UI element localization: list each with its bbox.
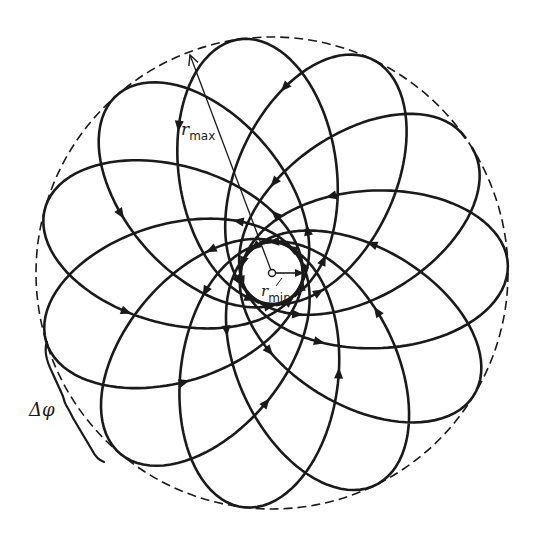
orbit-arrow-icon (334, 367, 343, 378)
r-min-leader (276, 278, 282, 286)
rosette-orbit-figure: rmax rmin Δφ (0, 0, 535, 546)
orbit-arrow-icon (204, 243, 218, 256)
orbit-arrow-icon (114, 207, 127, 221)
r-max-label: rmax (181, 119, 215, 143)
r-max-arrow (190, 55, 272, 273)
orbit-arrow-icon (120, 306, 133, 318)
delta-phi-label: Δφ (28, 399, 55, 420)
orbit-arrow-icon (292, 310, 304, 320)
center-point (269, 270, 276, 277)
